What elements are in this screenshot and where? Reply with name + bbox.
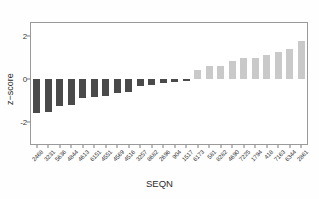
x-tick-mark [174,145,175,148]
x-tick-label: 8282 [215,149,228,162]
bar [217,66,224,79]
y-tick-mark [27,79,30,80]
x-tick-mark [71,145,72,148]
x-tick-label: 2696 [158,149,171,162]
bar [56,79,63,105]
x-tick-label: 1517 [181,149,194,162]
bar-slot [158,23,170,144]
x-tick-label: 3231 [43,149,56,162]
x-tick-mark [301,145,302,148]
bar [114,79,121,92]
bar [79,79,86,98]
bar [102,79,109,96]
x-tick-mark [243,145,244,148]
bar [206,66,213,79]
bar [137,79,144,86]
x-tick-label: 4690 [227,149,240,162]
x-tick-mark [163,145,164,148]
bar-series [31,23,307,144]
bar [68,79,75,104]
bar-slot [227,23,239,144]
x-tick-label: 3257 [135,149,148,162]
x-tick-mark [209,145,210,148]
x-tick-label: 1794 [250,149,263,162]
x-tick-mark [117,145,118,148]
x-tick-label: 7225 [238,149,251,162]
bar [171,79,178,82]
bar [148,79,155,85]
bar [91,79,98,97]
bar-slot [215,23,227,144]
bar-slot [54,23,66,144]
x-tick-mark [278,145,279,148]
x-tick-label: 4613 [77,149,90,162]
x-tick-mark [197,145,198,148]
x-tick-mark [186,145,187,148]
bar-slot [284,23,296,144]
y-axis-title: z−score [5,57,15,121]
x-tick-label: 5636 [54,149,67,162]
x-tick-mark [151,145,152,148]
bar-slot [296,23,308,144]
x-tick-mark [128,145,129,148]
bar-slot [181,23,193,144]
x-tick-label: 4516 [123,149,136,162]
bar [33,79,40,113]
bar-slot [100,23,112,144]
x-tick-mark [82,145,83,148]
bar-slot [192,23,204,144]
bar [286,49,293,79]
bar [263,55,270,79]
chart-figure: 20-2 z−score 246832315636484446136151455… [0,0,319,199]
bar-slot [66,23,78,144]
bar [298,41,305,79]
x-tick-mark [59,145,60,148]
y-tick-label: -2 [20,118,27,127]
bar-slot [43,23,55,144]
bar-slot [135,23,147,144]
x-tick-mark [140,145,141,148]
bar-slot [89,23,101,144]
bar [252,58,259,80]
bar-slot [77,23,89,144]
x-tick-mark [255,145,256,148]
x-axis-labels: 2468323156364844461361514551456945163257… [31,149,307,177]
bar [194,70,201,80]
x-tick-label: 8682 [146,149,159,162]
bar-slot [250,23,262,144]
bar-slot [261,23,273,144]
bar-slot [123,23,135,144]
bar-slot [31,23,43,144]
x-tick-mark [105,145,106,148]
x-tick-mark [289,145,290,148]
x-axis-title: SEQN [0,178,319,189]
bar [275,52,282,79]
x-tick-mark [232,145,233,148]
x-tick-label: 4569 [112,149,125,162]
x-tick-label: 6173 [192,149,205,162]
bar-slot [112,23,124,144]
bar [125,79,132,92]
x-tick-mark [36,145,37,148]
x-tick-label: 4551 [100,149,113,162]
x-tick-mark [266,145,267,148]
x-tick-mark [220,145,221,148]
x-tick-label: 7163 [273,149,286,162]
bar [240,58,247,79]
x-tick-label: 2861 [296,149,309,162]
bar [183,79,190,81]
bar [229,61,236,79]
x-tick-label: 6344 [284,149,297,162]
x-tick-mark [94,145,95,148]
bar-slot [204,23,216,144]
bar-slot [238,23,250,144]
y-tick-mark [27,35,30,36]
bar [45,79,52,112]
y-tick-mark [27,122,30,123]
x-tick-label: 2468 [31,149,44,162]
x-tick-mark [48,145,49,148]
bar [160,79,167,83]
bar-slot [273,23,285,144]
bar-slot [146,23,158,144]
x-tick-label: 4844 [66,149,79,162]
